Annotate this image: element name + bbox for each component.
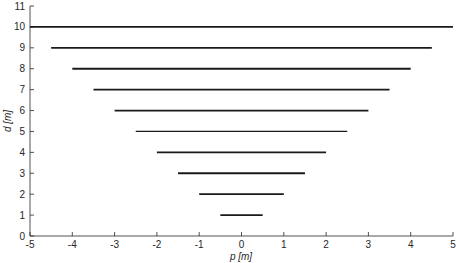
y-tick-label: 10 bbox=[14, 21, 26, 32]
x-tick-label: 3 bbox=[366, 239, 372, 250]
chart: -5-4-3-2-101234501234567891011 p [m] d [… bbox=[0, 0, 456, 263]
x-tick-label: 0 bbox=[239, 239, 245, 250]
y-tick-label: 5 bbox=[19, 126, 25, 137]
y-axis-label: d [m] bbox=[2, 110, 13, 132]
y-tick-label: 2 bbox=[19, 189, 25, 200]
y-tick-label: 8 bbox=[19, 63, 25, 74]
y-tick-label: 0 bbox=[19, 231, 25, 242]
y-tick-label: 6 bbox=[19, 105, 25, 116]
x-tick-label: -1 bbox=[195, 239, 204, 250]
y-tick-label: 1 bbox=[19, 210, 25, 221]
y-tick-label: 3 bbox=[19, 168, 25, 179]
series-lines bbox=[30, 27, 453, 215]
x-tick-label: 4 bbox=[408, 239, 414, 250]
x-tick-label: -4 bbox=[68, 239, 77, 250]
x-tick-label: 2 bbox=[323, 239, 329, 250]
x-axis-label: p [m] bbox=[229, 251, 252, 262]
x-tick-label: 1 bbox=[281, 239, 287, 250]
y-tick-label: 4 bbox=[19, 147, 25, 158]
axes: -5-4-3-2-101234501234567891011 bbox=[14, 1, 456, 251]
x-tick-label: -3 bbox=[110, 239, 119, 250]
y-tick-label: 7 bbox=[19, 84, 25, 95]
y-tick-label: 9 bbox=[19, 42, 25, 53]
x-tick-label: -5 bbox=[26, 239, 35, 250]
y-tick-label: 11 bbox=[15, 1, 26, 12]
x-tick-label: 5 bbox=[450, 239, 456, 250]
x-tick-label: -2 bbox=[152, 239, 161, 250]
